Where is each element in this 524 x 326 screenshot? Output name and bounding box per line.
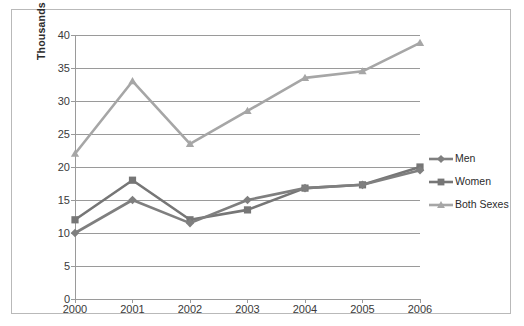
gridlines xyxy=(75,35,420,299)
x-axis-tick-label: 2001 xyxy=(109,304,157,315)
legend-item-men[interactable]: Men xyxy=(428,147,514,170)
legend-diamond-marker-icon xyxy=(428,153,454,165)
series-line xyxy=(75,43,420,154)
data-point-marker xyxy=(243,196,252,205)
plot-area xyxy=(75,35,420,299)
legend-item-both-sexes[interactable]: Both Sexes xyxy=(428,193,514,216)
y-axis-tick-labels: 0510152025303540 xyxy=(42,35,70,299)
x-axis-tick-label: 2004 xyxy=(281,304,329,315)
x-axis-tick-label: 2006 xyxy=(396,304,444,315)
chart-frame: Thousands 0510152025303540 2000200120022… xyxy=(11,9,511,314)
legend-item-label: Men xyxy=(454,153,475,164)
axis-lines xyxy=(71,35,420,303)
y-axis-tick-label: 35 xyxy=(46,63,70,74)
chart-legend: MenWomenBoth Sexes xyxy=(428,147,514,216)
chart-screenshot: Thousands 0510152025303540 2000200120022… xyxy=(0,0,524,326)
x-axis-tick-label: 2000 xyxy=(51,304,99,315)
legend-triangle-marker-icon xyxy=(428,199,454,211)
legend-item-label: Both Sexes xyxy=(454,199,509,210)
legend-square-marker-icon xyxy=(428,176,454,188)
data-point-marker xyxy=(128,77,136,84)
data-point-marker xyxy=(416,39,424,46)
plot-svg xyxy=(75,35,420,299)
data-point-marker xyxy=(437,154,445,162)
data-point-marker xyxy=(438,178,445,185)
x-axis-tick-labels: 2000200120022003200420052006 xyxy=(75,304,420,320)
x-axis-tick-label: 2005 xyxy=(339,304,387,315)
y-axis-tick-label: 15 xyxy=(46,195,70,206)
legend-item-label: Women xyxy=(454,176,491,187)
y-axis-tick-label: 25 xyxy=(46,129,70,140)
series-women xyxy=(71,163,423,223)
x-axis-tick-label: 2002 xyxy=(166,304,214,315)
series-men xyxy=(71,166,425,237)
data-series-layer xyxy=(71,39,425,238)
series-both-sexes xyxy=(71,39,424,157)
y-axis-tick-label: 20 xyxy=(46,162,70,173)
y-axis-tick-label: 30 xyxy=(46,96,70,107)
data-point-marker xyxy=(71,216,78,223)
legend-item-women[interactable]: Women xyxy=(428,170,514,193)
y-axis-tick-label: 10 xyxy=(46,228,70,239)
y-axis-tick-label: 5 xyxy=(46,261,70,272)
x-axis-tick-label: 2003 xyxy=(224,304,272,315)
y-axis-tick-label: 40 xyxy=(46,30,70,41)
data-point-marker xyxy=(244,206,251,213)
data-point-marker xyxy=(129,177,136,184)
